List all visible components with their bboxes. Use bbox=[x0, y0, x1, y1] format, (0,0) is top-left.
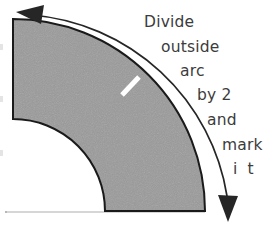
left-edge-fragments bbox=[0, 44, 3, 156]
quarter-annulus-elbow bbox=[0, 0, 275, 227]
baseline-origin-dot bbox=[5, 211, 7, 213]
arrow-head-down-icon bbox=[218, 195, 238, 222]
diagram-canvas bbox=[0, 0, 275, 227]
technical-drawing-figure: Divide outside arc by 2 and mark i t bbox=[0, 0, 275, 227]
